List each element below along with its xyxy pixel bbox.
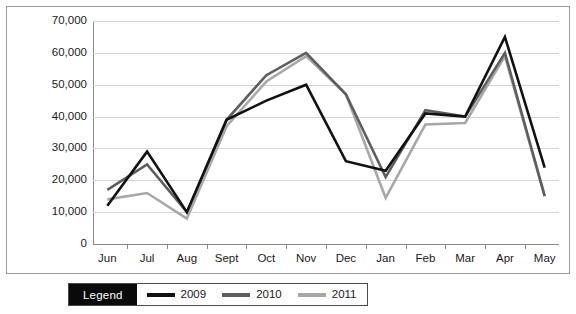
x-axis-tick-label: Jan [376,252,395,264]
legend-label-2010: 2010 [256,289,282,301]
y-axis-tick-label: 30,000 [52,142,87,154]
x-axis-tick-label: May [534,252,556,264]
x-axis-tick-label: Apr [496,252,514,264]
x-axis-tick-label: Aug [177,252,197,264]
x-axis-tick-label: Sept [215,252,239,264]
x-axis-tick-label: Feb [415,252,435,264]
legend-entries: 200920102011 [137,284,367,305]
legend-entry-2010: 2010 [222,289,282,301]
x-axis-tick-mark [406,244,407,249]
legend-swatch-2009 [147,293,175,297]
x-axis-tick-mark [207,244,208,249]
legend-label-2011: 2011 [332,289,357,301]
x-axis-tick-mark [445,244,446,249]
x-axis-tick-label: Mar [455,252,475,264]
x-axis-tick-mark [286,244,287,249]
x-axis-tick-label: Jul [140,252,155,264]
y-axis-tick-label: 20,000 [52,174,87,186]
y-axis-tick-label: 60,000 [52,47,87,59]
x-axis-tick-mark [246,244,247,249]
x-axis-tick-mark [525,244,526,249]
legend-entry-2009: 2009 [147,289,207,301]
x-axis-tick-label: Jun [98,252,117,264]
legend-title: Legend [69,284,137,305]
y-axis-tick-label: 0 [81,238,87,250]
series-line-2009 [107,37,544,212]
y-axis-tick-label: 40,000 [52,111,87,123]
y-axis-tick-label: 70,000 [52,15,87,27]
x-axis-tick-mark [485,244,486,249]
legend-swatch-2011 [298,293,326,297]
x-axis-tick-mark [366,244,367,249]
screenshot-root: 70,00060,00050,00040,00030,00020,00010,0… [0,0,576,314]
plot-area [93,21,559,244]
x-axis-tick-label: Nov [296,252,316,264]
x-axis-tick-label: Dec [336,252,356,264]
legend-label-2009: 2009 [181,289,207,301]
x-axis-tick-mark [127,244,128,249]
x-axis-tick-mark [326,244,327,249]
y-axis-tick-label: 50,000 [52,79,87,91]
x-axis-tick-label: Oct [257,252,275,264]
y-axis-tick-labels: 70,00060,00050,00040,00030,00020,00010,0… [7,7,87,275]
y-axis-tick-label: 10,000 [52,206,87,218]
series-lines [93,21,559,244]
legend-entry-2011: 2011 [298,289,357,301]
x-axis-tick-mark [167,244,168,249]
legend: Legend 200920102011 [68,283,368,306]
legend-swatch-2010 [222,293,250,297]
line-chart: 70,00060,00050,00040,00030,00020,00010,0… [6,6,570,274]
